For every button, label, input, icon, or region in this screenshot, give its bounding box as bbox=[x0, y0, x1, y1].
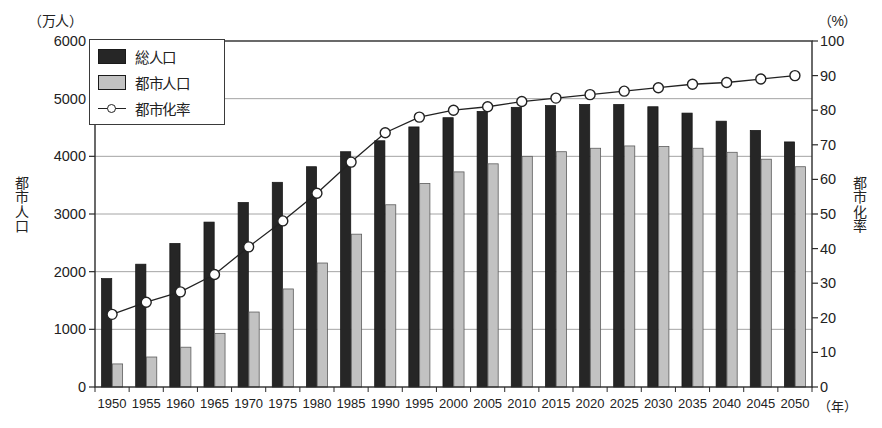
legend-line-marker-icon bbox=[98, 101, 126, 116]
bars-urban-population bbox=[112, 146, 805, 387]
legend-item-urban-population: 都市人口 bbox=[98, 71, 190, 93]
chart-container: （万人） （%） 都市人口 都市化率 010002000300040005000… bbox=[0, 0, 882, 428]
legend-item-total-population: 総人口 bbox=[98, 45, 176, 67]
legend-label-total-population: 総人口 bbox=[135, 46, 176, 67]
legend-swatch-dark-icon bbox=[98, 49, 126, 64]
legend-item-urbanization-rate: 都市化率 bbox=[98, 97, 190, 119]
legend-label-urbanization-rate: 都市化率 bbox=[135, 98, 190, 119]
legend-swatch-light-icon bbox=[98, 75, 126, 90]
bars-total-population bbox=[102, 104, 795, 387]
legend-label-urban-population: 都市人口 bbox=[135, 72, 190, 93]
legend: 総人口 都市人口 都市化率 bbox=[89, 39, 225, 125]
